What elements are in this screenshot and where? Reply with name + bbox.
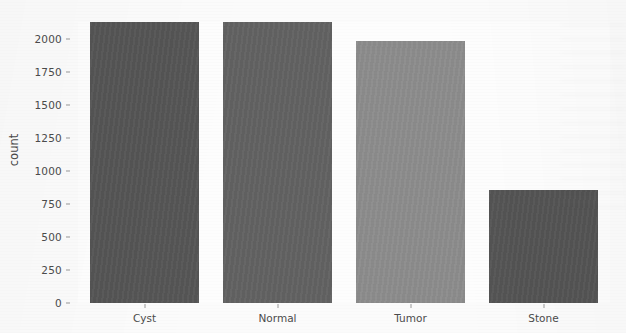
- y-tick-label: 750: [41, 198, 62, 210]
- y-tick-mark: [66, 237, 70, 238]
- y-tick-mark: [66, 138, 70, 139]
- y-tick-mark: [66, 39, 70, 40]
- y-tick-mark: [66, 303, 70, 304]
- y-tick-mark: [66, 270, 70, 271]
- y-tick-label: 1250: [34, 132, 62, 144]
- x-tick-mark: [410, 304, 411, 308]
- y-tick-mark: [66, 204, 70, 205]
- bar-texture: [90, 22, 200, 303]
- y-axis: count 025050075010001250150017502000: [0, 0, 78, 333]
- y-tick-label: 0: [55, 297, 62, 309]
- y-tick-label: 1500: [34, 99, 62, 111]
- x-tick-mark: [543, 304, 544, 308]
- bar-texture: [356, 41, 466, 303]
- plot-area: [78, 22, 610, 303]
- x-tick-label-stone: Stone: [528, 312, 558, 324]
- y-tick-label: 2000: [34, 33, 62, 45]
- y-tick-label: 1750: [34, 66, 62, 78]
- x-tick-mark: [277, 304, 278, 308]
- y-tick-label: 500: [41, 231, 62, 243]
- bar-cyst[interactable]: [90, 22, 200, 303]
- x-tick-label-tumor: Tumor: [394, 312, 426, 324]
- bar-texture: [223, 22, 333, 303]
- x-tick-mark: [144, 304, 145, 308]
- y-tick-mark: [66, 171, 70, 172]
- bar-texture: [489, 190, 599, 303]
- x-tick-label-normal: Normal: [259, 312, 297, 324]
- y-tick-mark: [66, 72, 70, 73]
- y-tick-mark: [66, 105, 70, 106]
- bar-normal[interactable]: [223, 22, 333, 303]
- bar-stone[interactable]: [489, 190, 599, 303]
- y-axis-label: count: [7, 134, 21, 166]
- y-tick-label: 1000: [34, 165, 62, 177]
- x-tick-label-cyst: Cyst: [133, 312, 156, 324]
- bar-tumor[interactable]: [356, 41, 466, 303]
- bar-chart-figure: count 025050075010001250150017502000 Cys…: [0, 0, 626, 333]
- y-tick-label: 250: [41, 264, 62, 276]
